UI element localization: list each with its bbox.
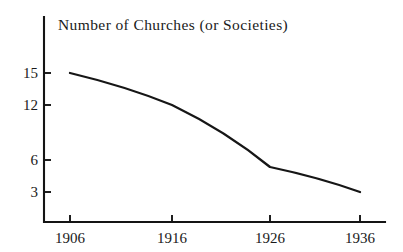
x-axis-tick-label: 1906 <box>55 230 86 246</box>
x-axis-tick-label: 1936 <box>345 230 376 246</box>
y-axis-tick-label: 6 <box>31 152 39 168</box>
y-axis-tick-label: 12 <box>23 97 38 113</box>
x-axis-tick-label: 1926 <box>255 230 286 246</box>
y-axis-tick-label: 3 <box>31 184 39 200</box>
line-chart: Number of Churches (or Societies) 151263… <box>0 0 403 252</box>
chart-background <box>0 0 403 252</box>
y-axis-tick-label: 15 <box>23 65 38 81</box>
chart-title: Number of Churches (or Societies) <box>58 16 288 34</box>
chart-figure: Number of Churches (or Societies) 151263… <box>0 0 403 252</box>
x-axis-tick-label: 1916 <box>157 230 188 246</box>
